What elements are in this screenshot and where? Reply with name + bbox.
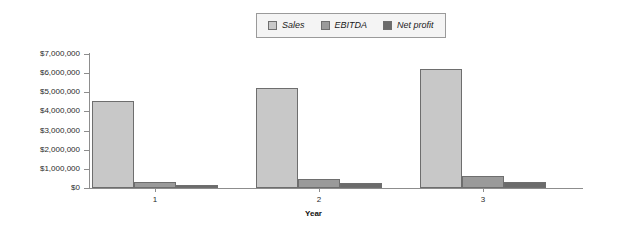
x-tick-mark	[155, 188, 156, 192]
y-tick-label: $1,000,000	[40, 165, 80, 173]
plot-area: $0$1,000,000$2,000,000$3,000,000$4,000,0…	[0, 0, 627, 231]
bar-chart: SalesEBITDANet profit $0$1,000,000$2,000…	[0, 0, 627, 231]
x-axis-line	[89, 188, 583, 189]
x-axis-title: Year	[0, 210, 627, 218]
y-tick-mark	[84, 111, 89, 112]
bar-sales-year-2[interactable]	[256, 88, 298, 188]
bar-ebitda-year-1[interactable]	[134, 182, 176, 188]
y-tick-mark	[84, 131, 89, 132]
y-tick-label: $3,000,000	[40, 127, 80, 135]
bar-ebitda-year-3[interactable]	[462, 176, 504, 188]
y-axis-line	[89, 53, 90, 189]
y-tick-label: $5,000,000	[40, 88, 80, 96]
y-tick-label: $0	[71, 184, 80, 192]
bar-net-profit-year-2[interactable]	[340, 183, 382, 188]
x-tick-label: 3	[481, 196, 485, 204]
bar-net-profit-year-3[interactable]	[504, 182, 546, 188]
x-tick-mark	[483, 188, 484, 192]
y-tick-mark	[84, 169, 89, 170]
bar-ebitda-year-2[interactable]	[298, 179, 340, 188]
bar-sales-year-1[interactable]	[92, 101, 134, 188]
y-tick-label: $6,000,000	[40, 69, 80, 77]
y-tick-mark	[84, 92, 89, 93]
y-tick-mark	[84, 150, 89, 151]
y-tick-label: $2,000,000	[40, 146, 80, 154]
y-tick-mark	[84, 54, 89, 55]
bar-net-profit-year-1[interactable]	[176, 185, 218, 188]
x-tick-label: 2	[317, 196, 321, 204]
y-tick-label: $7,000,000	[40, 50, 80, 58]
x-tick-label: 1	[153, 196, 157, 204]
y-tick-label: $4,000,000	[40, 107, 80, 115]
bar-sales-year-3[interactable]	[420, 69, 462, 188]
x-tick-mark	[319, 188, 320, 192]
y-tick-mark	[84, 188, 89, 189]
y-tick-mark	[84, 73, 89, 74]
